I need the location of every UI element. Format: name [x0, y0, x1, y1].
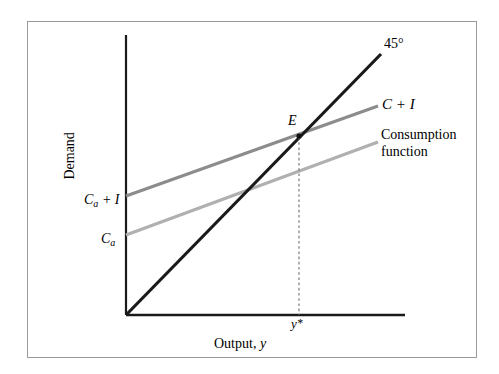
consumption-function-line	[126, 142, 378, 235]
y-star-tick-label: y*	[291, 317, 303, 332]
x-axis-label-variable: y	[260, 336, 266, 351]
c-plus-i-line	[126, 106, 378, 196]
ca-plus-i-rest: + I	[98, 192, 119, 207]
ca-plus-i-intercept-label: Ca + I	[84, 192, 120, 209]
equilibrium-point-label: E	[288, 113, 297, 129]
ca-intercept-label: Ca	[101, 231, 115, 248]
figure-container: 45° C + I Consumption function E Ca + I …	[0, 0, 499, 374]
equilibrium-point-marker	[296, 133, 301, 138]
x-axis-label-prefix: Output,	[214, 336, 260, 351]
consumption-function-label-line2: function	[381, 144, 428, 159]
ca-plus-i-base: C	[84, 192, 93, 207]
ca-base: C	[101, 231, 110, 246]
y-star-asterisk: *	[297, 317, 303, 330]
forty-five-degree-line	[126, 54, 381, 315]
c-plus-i-label: C + I	[382, 96, 415, 113]
y-axis-label: Demand	[62, 124, 78, 188]
ca-subscript: a	[110, 237, 115, 248]
consumption-function-label: Consumption function	[381, 127, 456, 160]
x-axis-label: Output, y	[214, 336, 266, 352]
consumption-function-label-line1: Consumption	[381, 127, 456, 142]
forty-five-degree-label: 45°	[384, 36, 404, 52]
